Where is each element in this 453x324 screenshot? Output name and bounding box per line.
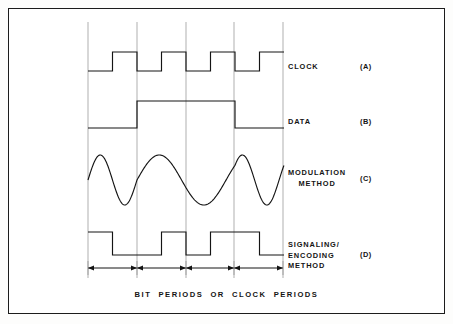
waveform-tag-modulation: (C) <box>360 174 372 183</box>
waveform-tag-signaling: (D) <box>360 250 372 259</box>
bit-period-arrowhead-2-1 <box>228 265 234 270</box>
bit-period-arrowhead-3-0 <box>234 265 240 270</box>
waveform-tag-data: (B) <box>360 117 372 126</box>
waveform-label-data: DATA <box>288 117 311 128</box>
signaling-waveform-path <box>88 232 284 255</box>
waveform-label-signaling: SIGNALING/ENCODINGMETHOD <box>288 240 340 272</box>
bit-period-arrowhead-3-1 <box>277 265 283 270</box>
waveform-label-clock: CLOCK <box>288 62 319 73</box>
figure-caption: BIT PERIODS OR CLOCK PERIODS <box>0 290 453 299</box>
bit-period-arrowhead-1-1 <box>180 265 186 270</box>
bit-period-arrow-markers <box>88 261 283 275</box>
bit-period-arrowhead-2-0 <box>186 265 192 270</box>
bit-period-arrowhead-1-0 <box>137 265 143 270</box>
waveform-label-modulation: MODULATIONMETHOD <box>288 168 346 189</box>
timing-diagram-canvas <box>0 0 453 324</box>
waveform-tag-clock: (A) <box>360 62 372 71</box>
figure-root: CLOCK (A) DATA (B) MODULATIONMETHOD (C) … <box>0 0 453 324</box>
bit-period-arrowhead-0-1 <box>131 265 137 270</box>
clock-waveform-path <box>88 52 284 71</box>
bit-period-arrowhead-0-0 <box>88 265 94 270</box>
